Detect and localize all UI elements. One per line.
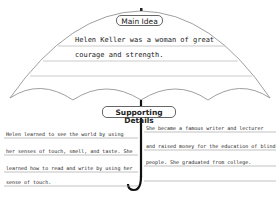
right-detail-line-1: She became a famous writer and lecturer [146,125,263,131]
right-detail-line-2: and raised money for the education of bl… [146,143,275,149]
main-idea-label: Main Idea [116,15,163,26]
main-idea-line-2: courage and strength. [75,51,164,59]
umbrella-graphic [0,0,277,203]
supporting-details-label: Supporting Details [102,106,176,118]
right-detail-line-3: people. She graduated from college. [146,159,251,165]
left-detail-line-3: learned how to read and write by using h… [6,165,132,171]
left-detail-line-4: sense of touch. [6,179,51,185]
main-idea-line-1: Helen Keller was a woman of great [75,36,214,44]
left-detail-line-1: Helen learned to see the world by using [6,131,123,137]
left-detail-line-2: her senses of touch, smell, and taste. S… [6,148,132,154]
